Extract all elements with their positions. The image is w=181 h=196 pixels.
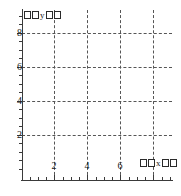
x-tick-minor: [38, 177, 39, 181]
tofu-glyph: [140, 159, 147, 167]
y-tick-minor: [19, 75, 23, 76]
chart-annotation-bottom-right: x: [140, 159, 177, 167]
x-tick-minor: [170, 177, 171, 181]
tofu-glyph: [32, 11, 39, 19]
gridline-horizontal-8: [22, 33, 172, 34]
x-tick-minor: [112, 177, 113, 181]
x-tick-minor: [79, 177, 80, 181]
gridline-vertical-2: [54, 10, 55, 180]
x-tick-major-6: [120, 175, 121, 181]
x-tick-major-8: [153, 175, 154, 181]
x-tick-label-6: 6: [113, 161, 127, 171]
y-tick-minor: [19, 152, 23, 153]
x-tick-major-2: [54, 175, 55, 181]
glyph-y: y: [40, 11, 45, 19]
y-tick-minor: [19, 143, 23, 144]
y-tick-label-2: 2: [8, 130, 22, 140]
gridline-vertical-6: [120, 10, 121, 180]
gridline-horizontal-6: [22, 67, 172, 68]
gridline-horizontal-2: [22, 135, 172, 136]
x-tick-major-4: [87, 175, 88, 181]
x-tick-label-4: 4: [80, 161, 94, 171]
tofu-glyph: [148, 159, 155, 167]
gridline-vertical-4: [87, 10, 88, 180]
tofu-glyph: [46, 11, 53, 19]
y-axis-line: [22, 9, 23, 181]
x-tick-label-2: 2: [47, 161, 61, 171]
x-axis-line: [21, 180, 173, 181]
x-tick-minor: [145, 177, 146, 181]
x-tick-minor: [137, 177, 138, 181]
gridline-vertical-8: [153, 10, 154, 180]
y-tick-minor: [19, 58, 23, 59]
x-tick-minor: [129, 177, 130, 181]
gridline-horizontal-4: [22, 101, 172, 102]
x-tick-minor: [46, 177, 47, 181]
x-tick-minor: [96, 177, 97, 181]
y-tick-minor: [19, 41, 23, 42]
x-tick-minor: [104, 177, 105, 181]
tofu-glyph: [162, 159, 169, 167]
y-tick-minor: [19, 16, 23, 17]
plot-area: [22, 10, 172, 180]
y-tick-minor: [19, 50, 23, 51]
y-tick-minor: [19, 160, 23, 161]
y-tick-label-6: 6: [8, 62, 22, 72]
y-tick-minor: [19, 84, 23, 85]
y-tick-label-8: 8: [8, 28, 22, 38]
y-tick-minor: [19, 118, 23, 119]
tofu-glyph: [170, 159, 177, 167]
glyph-x: x: [156, 159, 161, 167]
y-tick-minor: [19, 169, 23, 170]
x-tick-minor: [63, 177, 64, 181]
chart-figure: 8 6 4 2 2 4 6 y x: [0, 0, 181, 196]
tofu-glyph: [24, 11, 31, 19]
x-tick-minor: [71, 177, 72, 181]
y-tick-minor: [19, 109, 23, 110]
y-tick-label-4: 4: [8, 96, 22, 106]
tofu-glyph: [54, 11, 61, 19]
y-tick-minor: [19, 24, 23, 25]
x-tick-minor: [30, 177, 31, 181]
chart-annotation-top-left: y: [24, 11, 61, 19]
x-tick-minor: [162, 177, 163, 181]
y-tick-minor: [19, 126, 23, 127]
y-tick-minor: [19, 92, 23, 93]
